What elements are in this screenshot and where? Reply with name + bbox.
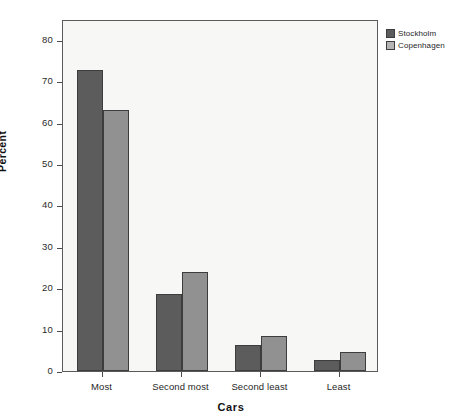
legend-item-copenhagen: Copenhagen <box>386 40 460 50</box>
plot-inner <box>63 21 377 371</box>
y-tick-label: 60 <box>42 117 53 128</box>
plot-area <box>62 20 378 372</box>
x-tick-mark <box>339 372 340 377</box>
y-axis-tick: 80 <box>0 41 62 42</box>
legend-item-label: Stockholm <box>398 29 436 38</box>
bar-copenhagen-second-most <box>182 272 208 371</box>
bar-stockholm-least <box>314 360 340 371</box>
y-axis-tick: 60 <box>0 124 62 125</box>
x-tick-label: Second most <box>136 381 226 392</box>
y-tick-label: 50 <box>42 158 53 169</box>
bar-copenhagen-second-least <box>261 336 287 371</box>
y-tick-label: 40 <box>42 199 53 210</box>
legend-swatch-icon <box>386 29 395 38</box>
y-tick-label: 80 <box>42 34 53 45</box>
y-axis-tick: 40 <box>0 206 62 207</box>
chart-legend: StockholmCopenhagen <box>386 28 460 52</box>
y-tick-mark <box>57 372 62 373</box>
bar-copenhagen-least <box>340 352 366 371</box>
y-axis-tick: 50 <box>0 165 62 166</box>
bar-chart: Percent 01020304050607080 MostSecond mos… <box>0 0 462 419</box>
y-axis-tick: 70 <box>0 82 62 83</box>
bar-copenhagen-most <box>103 110 129 371</box>
y-axis-tick: 30 <box>0 248 62 249</box>
x-tick-mark <box>102 372 103 377</box>
legend-swatch-icon <box>386 41 395 50</box>
y-tick-label: 70 <box>42 75 53 86</box>
legend-item-label: Copenhagen <box>398 41 445 50</box>
y-axis-tick: 0 <box>0 372 62 373</box>
x-tick-label: Second least <box>215 381 305 392</box>
bar-stockholm-second-least <box>235 345 261 371</box>
x-axis-title: Cars <box>0 401 462 413</box>
y-tick-label: 30 <box>42 241 53 252</box>
y-tick-label: 20 <box>42 282 53 293</box>
legend-item-stockholm: Stockholm <box>386 28 460 38</box>
x-tick-mark <box>181 372 182 377</box>
bar-stockholm-second-most <box>156 294 182 371</box>
bar-stockholm-most <box>77 70 103 371</box>
x-tick-label: Least <box>294 381 384 392</box>
y-axis-tick: 20 <box>0 289 62 290</box>
x-tick-mark <box>260 372 261 377</box>
x-tick-label: Most <box>57 381 147 392</box>
y-tick-label: 10 <box>42 324 53 335</box>
y-tick-label: 0 <box>48 365 53 376</box>
y-axis-tick: 10 <box>0 331 62 332</box>
